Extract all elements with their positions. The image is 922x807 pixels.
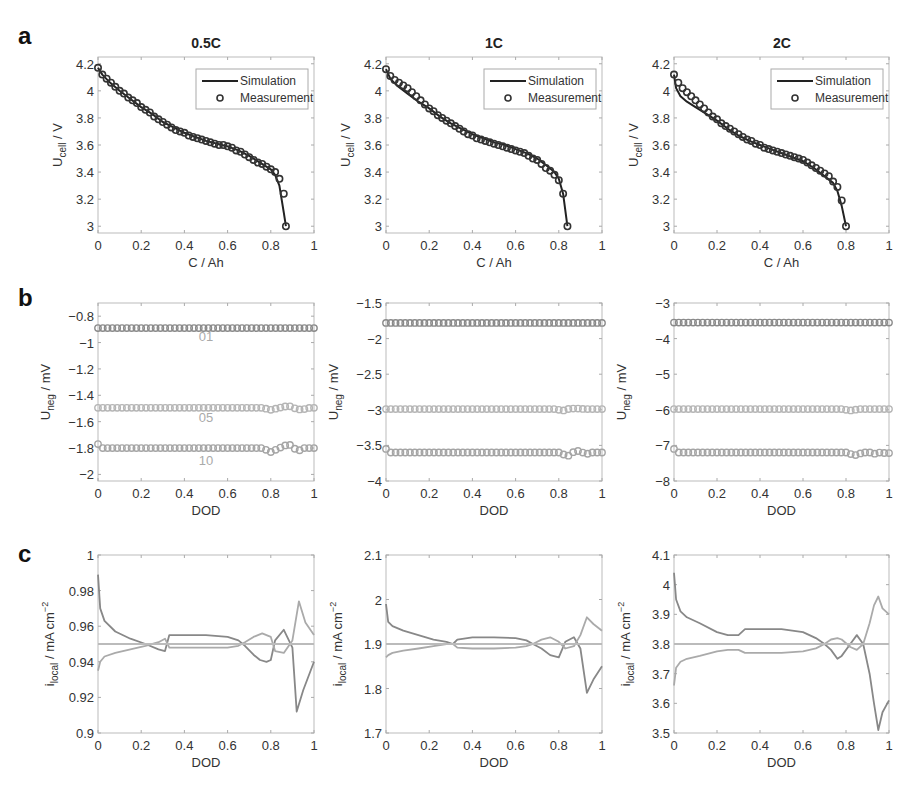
x-tick-label: 0.6	[219, 738, 237, 753]
curve-annotation: 05	[199, 410, 213, 425]
x-tick-label: 0.4	[751, 486, 769, 501]
legend-label-measurement: Measurement	[815, 91, 889, 105]
x-tick-label: 1	[598, 486, 605, 501]
series-line-lower	[674, 597, 889, 686]
y-tick-label: 4	[375, 84, 382, 99]
y-tick-label: −1.5	[356, 296, 382, 311]
y-tick-label: 4.2	[76, 57, 94, 72]
x-tick-label: 1	[598, 238, 605, 253]
x-tick-label: 0	[670, 238, 677, 253]
legend-label-simulation: Simulation	[528, 74, 584, 88]
y-tick-label: −1.2	[68, 362, 94, 377]
x-tick-label: 0.8	[262, 486, 280, 501]
y-tick-label: 3.8	[652, 637, 670, 652]
y-tick-label: −6	[655, 403, 670, 418]
y-axis-label: Ucell / V	[50, 123, 68, 167]
y-tick-label: −4	[367, 474, 382, 489]
x-tick-label: 1	[885, 738, 892, 753]
x-tick-label: 0	[670, 738, 677, 753]
x-tick-label: 0.8	[550, 238, 568, 253]
legend-label-simulation: Simulation	[240, 74, 296, 88]
y-tick-label: −2	[79, 467, 94, 482]
chart-c-2C: 00.20.40.60.813.53.63.73.83.944.1DODiloc…	[616, 548, 893, 770]
x-tick-label: 0	[670, 486, 677, 501]
y-tick-label: 4.2	[364, 57, 382, 72]
x-tick-label: 1	[310, 738, 317, 753]
y-tick-label: 3	[663, 219, 670, 234]
y-tick-label: 4	[663, 84, 670, 99]
y-tick-label: 0.96	[69, 619, 94, 634]
chart-a-2C: 00.20.40.60.8133.23.43.63.844.2C / AhUce…	[626, 57, 893, 270]
y-tick-label: −2	[367, 332, 382, 347]
y-tick-label: 3.2	[364, 192, 382, 207]
x-tick-label: 0.6	[794, 486, 812, 501]
x-tick-label: 0.4	[751, 238, 769, 253]
y-tick-label: 3.2	[652, 192, 670, 207]
y-tick-label: −2.5	[356, 367, 382, 382]
x-axis-label: DOD	[192, 755, 221, 770]
chart-c-1C: 00.20.40.60.811.71.81.922.1DODilocal / m…	[328, 548, 606, 770]
x-tick-label: 0.6	[507, 738, 525, 753]
x-tick-label: 0.8	[550, 486, 568, 501]
y-axis-label: Uneg / mV	[326, 363, 344, 420]
y-axis-label: Uneg / mV	[38, 363, 56, 420]
y-tick-label: 2	[375, 593, 382, 608]
x-tick-label: 0.8	[550, 738, 568, 753]
x-tick-label: 1	[885, 486, 892, 501]
y-tick-label: −1.8	[68, 441, 94, 456]
y-tick-label: 3.4	[364, 165, 382, 180]
x-tick-label: 1	[310, 238, 317, 253]
x-tick-label: 0.2	[420, 738, 438, 753]
x-tick-label: 0.8	[262, 738, 280, 753]
x-tick-label: 0.4	[463, 738, 481, 753]
x-tick-label: 0.6	[794, 738, 812, 753]
y-tick-label: −0.8	[68, 309, 94, 324]
x-tick-label: 0	[94, 486, 101, 501]
y-tick-label: 3.4	[76, 165, 94, 180]
y-tick-label: −1.6	[68, 415, 94, 430]
x-axis-label: DOD	[767, 755, 796, 770]
y-tick-label: 3.2	[76, 192, 94, 207]
x-tick-label: 0.4	[175, 486, 193, 501]
y-tick-label: 1	[87, 548, 94, 563]
x-tick-label: 0.6	[507, 486, 525, 501]
x-tick-label: 1	[598, 738, 605, 753]
x-tick-label: 0.4	[175, 238, 193, 253]
y-tick-label: 1.7	[364, 726, 382, 741]
y-tick-label: 3.6	[652, 696, 670, 711]
y-tick-label: 3.6	[364, 138, 382, 153]
x-tick-label: 0.4	[463, 238, 481, 253]
y-tick-label: 3	[87, 219, 94, 234]
y-tick-label: 0.98	[69, 584, 94, 599]
y-tick-label: 1.8	[364, 682, 382, 697]
y-tick-label: 2.1	[364, 548, 382, 563]
chart-a-1C: 00.20.40.60.8133.23.43.63.844.2C / AhUce…	[338, 57, 606, 270]
legend-label-measurement: Measurement	[240, 91, 314, 105]
y-tick-label: 3.8	[652, 111, 670, 126]
y-axis-label: Ucell / V	[338, 123, 356, 167]
chart-a-0.5C: 00.20.40.60.8133.23.43.63.844.2C / AhUce…	[50, 57, 318, 270]
chart-c-0.5C: 00.20.40.60.810.90.920.940.960.981DODilo…	[40, 548, 318, 770]
x-tick-label: 0.2	[132, 238, 150, 253]
y-tick-label: 0.94	[69, 655, 94, 670]
y-tick-label: 4.1	[652, 548, 670, 563]
x-axis-label: DOD	[192, 503, 221, 518]
x-tick-label: 0.8	[837, 238, 855, 253]
y-tick-label: −8	[655, 474, 670, 489]
x-tick-label: 0.4	[463, 486, 481, 501]
y-tick-label: 3.8	[364, 111, 382, 126]
y-tick-label: −4	[655, 332, 670, 347]
y-tick-label: 3.8	[76, 111, 94, 126]
y-tick-label: 4	[663, 578, 670, 593]
legend-label-simulation: Simulation	[815, 74, 871, 88]
x-tick-label: 0.6	[794, 238, 812, 253]
y-tick-label: 3.9	[652, 607, 670, 622]
figure-canvas: 00.20.40.60.8133.23.43.63.844.2C / AhUce…	[0, 0, 922, 807]
y-tick-label: −3	[655, 296, 670, 311]
y-tick-label: −1.4	[68, 388, 94, 403]
x-axis-label: C / Ah	[188, 255, 223, 270]
x-tick-label: 0.8	[837, 486, 855, 501]
curve-annotation: 01	[199, 329, 213, 344]
x-tick-label: 0.2	[132, 486, 150, 501]
y-axis-label: Ucell / V	[626, 123, 644, 167]
